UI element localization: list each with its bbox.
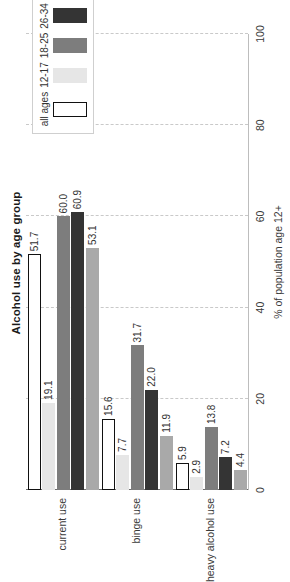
- bar-value-label: 53.1: [86, 225, 99, 244]
- bar-value-label: 4.4: [234, 453, 247, 467]
- chart-title: Alcohol use by age group: [10, 0, 22, 526]
- legend-item[interactable]: 26-34: [39, 3, 87, 29]
- legend-label: 12-17: [39, 62, 50, 88]
- axis-tick-label: 100: [254, 25, 266, 43]
- bar: [102, 419, 115, 490]
- bar: [145, 390, 158, 490]
- bar-value-label: 2.9: [190, 460, 203, 474]
- bar-value-label: 31.7: [131, 323, 144, 342]
- bar-value-label: 22.0: [145, 367, 158, 386]
- category-label: current use: [56, 498, 68, 551]
- bar-value-label: 7.7: [116, 438, 129, 452]
- bar: [57, 216, 70, 490]
- bar-value-label: 7.2: [219, 440, 232, 454]
- legend-item[interactable]: 12-17: [39, 62, 87, 88]
- axis-tick-label: 60: [254, 211, 266, 223]
- bar: [28, 254, 41, 490]
- legend-item[interactable]: all ages: [39, 92, 87, 126]
- legend-swatch: [53, 102, 87, 117]
- category-label: heavy alcohol use: [204, 498, 216, 582]
- bar: [131, 345, 144, 490]
- legend-swatch: [53, 38, 87, 53]
- bar: [86, 248, 99, 490]
- bar-value-label: 51.7: [28, 232, 41, 251]
- bar-value-label: 60.0: [57, 194, 70, 213]
- legend-swatch: [53, 68, 87, 83]
- bar: [219, 457, 232, 490]
- category-label: binge use: [130, 498, 142, 544]
- legend-item[interactable]: 18-25: [39, 33, 87, 59]
- bar-value-label: 60.9: [71, 190, 84, 209]
- bar: [71, 212, 84, 490]
- legend-label: 18-25: [39, 33, 50, 59]
- legend-label: all ages: [39, 92, 50, 126]
- category-axis-line: [248, 34, 249, 490]
- bar: [42, 403, 55, 490]
- bar: [160, 436, 173, 490]
- bar-value-label: 15.6: [102, 396, 115, 415]
- legend-label: 26-34: [39, 3, 50, 29]
- bar-value-label: 19.1: [42, 380, 55, 399]
- value-axis-title: % of population age 12+: [272, 205, 284, 319]
- bar: [234, 470, 247, 490]
- bar: [205, 427, 218, 490]
- axis-tick-label: 0: [254, 487, 266, 493]
- bar: [116, 455, 129, 490]
- chart-legend: all ages12-1718-2526-3435+: [32, 0, 94, 134]
- axis-tick-label: 20: [254, 393, 266, 405]
- axis-tick-label: 40: [254, 302, 266, 314]
- legend-swatch: [53, 8, 87, 23]
- bar-value-label: 5.9: [176, 446, 189, 460]
- bar: [176, 463, 189, 490]
- bar-value-label: 13.8: [205, 405, 218, 424]
- axis-tick-label: 80: [254, 119, 266, 131]
- bar-value-label: 11.9: [160, 414, 173, 433]
- bar: [190, 477, 203, 490]
